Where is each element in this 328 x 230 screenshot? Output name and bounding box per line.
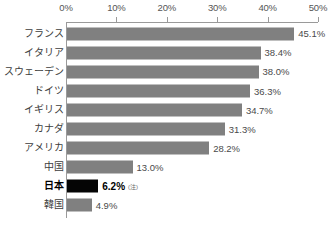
- category-label: カナダ: [0, 124, 64, 134]
- bar-chart: 0%10%20%30%40%50% フランス45.1%イタリア38.4%スウェー…: [0, 0, 328, 230]
- x-axis-tick-label: 40%: [258, 2, 276, 13]
- bar-and-value: 38.0%: [67, 65, 289, 78]
- bar-value-label: 38.0%: [263, 67, 290, 77]
- x-axis-tick-label: 0%: [59, 2, 72, 13]
- bar-value-label: 6.2%: [102, 181, 125, 191]
- x-axis-tick-mark: [116, 17, 117, 22]
- category-label: イギリス: [0, 105, 64, 115]
- bar-value-label: 4.9%: [96, 201, 118, 211]
- x-axis-tick-label: 10%: [107, 2, 125, 13]
- x-axis-tick-labels: 0%10%20%30%40%50%: [0, 2, 328, 16]
- bar: [67, 65, 259, 78]
- category-label: アメリカ: [0, 143, 64, 153]
- bar-and-value: 28.2%: [67, 142, 240, 155]
- category-label: イタリア: [0, 48, 64, 58]
- bar-and-value: 6.2%(注): [67, 180, 138, 193]
- bar: [67, 199, 92, 212]
- category-label: フランス: [0, 29, 64, 39]
- bar: [67, 103, 242, 116]
- bar-row: イタリア38.4%: [0, 43, 328, 62]
- category-label: 中国: [0, 162, 64, 172]
- x-axis-tick-mark: [167, 17, 168, 22]
- bar-and-value: 36.3%: [67, 84, 281, 97]
- x-axis-tick-mark: [318, 17, 319, 22]
- category-label: ドイツ: [0, 86, 64, 96]
- bar-value-label: 28.2%: [213, 143, 240, 153]
- bar-rows: フランス45.1%イタリア38.4%スウェーデン38.0%ドイツ36.3%イギリ…: [0, 24, 328, 215]
- bar-row: カナダ31.3%: [0, 119, 328, 138]
- bar-and-value: 4.9%: [67, 199, 117, 212]
- bar-row: スウェーデン38.0%: [0, 62, 328, 81]
- bar-and-value: 13.0%: [67, 161, 163, 174]
- category-label: スウェーデン: [0, 67, 64, 77]
- bar: [67, 46, 261, 59]
- bar-row: イギリス34.7%: [0, 100, 328, 119]
- bar-value-label: 38.4%: [265, 48, 292, 58]
- x-axis-tick-mark: [268, 17, 269, 22]
- bar-value-label: 36.3%: [254, 86, 281, 96]
- bar: [67, 161, 133, 174]
- bar: [67, 142, 209, 155]
- bar-row: 中国13.0%: [0, 158, 328, 177]
- bar-and-value: 34.7%: [67, 103, 273, 116]
- x-axis-tick-label: 30%: [208, 2, 226, 13]
- bar-and-value: 38.4%: [67, 46, 291, 59]
- category-label: 日本: [0, 181, 64, 191]
- bar-row: アメリカ28.2%: [0, 139, 328, 158]
- bar: [67, 27, 294, 40]
- bar-value-label: 31.3%: [229, 124, 256, 134]
- bar: [67, 123, 225, 136]
- bar-value-label: 13.0%: [137, 162, 164, 172]
- x-axis-tick-label: 20%: [158, 2, 176, 13]
- bar-row: ドイツ36.3%: [0, 81, 328, 100]
- bar: [67, 180, 98, 193]
- category-label: 韓国: [0, 200, 64, 210]
- x-axis-tick-mark: [217, 17, 218, 22]
- bar-row: 韓国4.9%: [0, 196, 328, 215]
- footnote-marker: (注): [128, 182, 138, 191]
- x-axis-line: [66, 22, 318, 23]
- bar-and-value: 45.1%: [67, 27, 325, 40]
- x-axis-tick-label: 50%: [309, 2, 327, 13]
- bar-row: 日本6.2%(注): [0, 177, 328, 196]
- bar: [67, 84, 250, 97]
- bar-value-label: 34.7%: [246, 105, 273, 115]
- bar-and-value: 31.3%: [67, 123, 256, 136]
- bar-row: フランス45.1%: [0, 24, 328, 43]
- bar-value-label: 45.1%: [298, 29, 325, 39]
